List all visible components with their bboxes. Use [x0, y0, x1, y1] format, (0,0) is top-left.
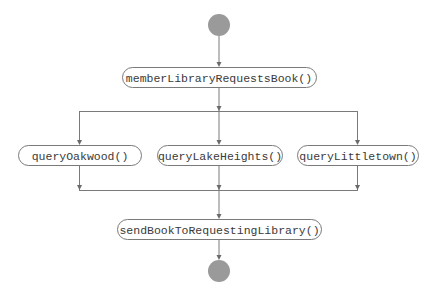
arrowhead-icon: [217, 185, 222, 190]
arrowhead-icon: [355, 185, 360, 190]
node-member-library-requests-book[interactable]: memberLibraryRequestsBook(): [123, 68, 317, 88]
end-node: [208, 260, 230, 282]
node-label: queryOakwood(): [32, 150, 129, 163]
edge-oakwood-to-join: [77, 166, 82, 190]
node-label: queryLittletown(): [299, 150, 416, 163]
arrowhead-icon: [77, 140, 82, 145]
edge-lakeheights-to-join: [217, 166, 222, 190]
edge-littletown-to-join: [355, 166, 360, 190]
arrowhead-icon: [217, 140, 222, 145]
node-query-lakeheights[interactable]: queryLakeHeights(): [158, 146, 283, 166]
edge-fork-to-littletown: [355, 111, 360, 145]
arrowhead-icon: [217, 62, 222, 67]
edge-request-to-fork: [217, 88, 222, 111]
edge-join-to-send: [217, 190, 222, 219]
node-label: sendBookToRequestingLibrary(): [119, 224, 319, 237]
node-query-littletown[interactable]: queryLittletown(): [298, 146, 419, 166]
arrowhead-icon: [217, 106, 222, 111]
arrowhead-icon: [355, 140, 360, 145]
arrowhead-icon: [77, 185, 82, 190]
edge-send-to-end: [217, 240, 222, 260]
node-query-oakwood[interactable]: queryOakwood(): [19, 146, 142, 166]
node-label: memberLibraryRequestsBook(): [126, 72, 312, 85]
node-label: queryLakeHeights(): [158, 150, 282, 163]
node-send-book-to-requesting-library[interactable]: sendBookToRequestingLibrary(): [118, 220, 322, 240]
edge-fork-to-lakeheights: [217, 111, 222, 145]
activity-diagram: memberLibraryRequestsBook() queryOakwood…: [0, 0, 436, 294]
start-node: [208, 14, 230, 36]
arrowhead-icon: [217, 214, 222, 219]
arrowhead-icon: [217, 255, 222, 260]
edge-start-to-request: [217, 36, 222, 67]
edge-fork-to-oakwood: [77, 111, 82, 145]
